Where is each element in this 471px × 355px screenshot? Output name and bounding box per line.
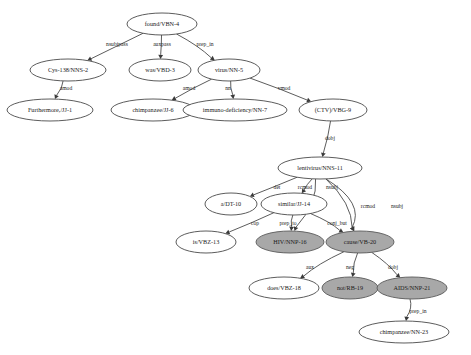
graph-edge-vmod: vmod [250,78,311,102]
graph-edge-cop: cop [225,213,273,234]
graph-canvas: nsubjpassauxpassprep_inamodamodnnvmoddob… [0,0,471,355]
edge-label: neg [346,264,354,270]
graph-node-n21[interactable]: AIDS/NNP-21 [377,277,447,299]
graph-node-n16[interactable]: HIV/NNP-16 [256,231,324,253]
edge-label: dobj [325,135,335,141]
edge-label: prep_to [279,220,296,226]
node-label: was/VBD-3 [145,66,175,73]
node-label: Furthermore,/JJ-1 [28,106,72,113]
arrowhead-icon [210,56,215,60]
graph-edge-dobj: dobj [372,252,401,277]
graph-node-n23[interactable]: chimpanzee/NN-23 [359,321,449,343]
edge-label: rcmod [298,184,312,190]
edge-label: det [274,184,281,190]
graph-node-n10[interactable]: a/DT-10 [205,193,257,215]
graph-edge-amod: amod [54,81,72,99]
edge-label: vmod [278,85,291,91]
edge-label: aux [306,264,314,270]
arrowhead-icon [158,55,163,59]
graph-node-n6[interactable]: chimpanzee/JJ-6 [111,99,195,121]
node-label: not/RB-19 [337,284,363,291]
graph-edge-aux: aux [300,252,344,279]
edge-label: prep_in [196,41,213,47]
edge-label: prep_in [409,308,426,314]
graph-node-n4[interactable]: found/VBN-4 [127,13,197,35]
arrowhead-icon [289,227,294,231]
graph-edge-nn: nn [225,81,235,99]
graph-node-n1[interactable]: Furthermore,/JJ-1 [7,99,93,121]
node-label: immuno-deficiency/NN-7 [203,106,267,113]
node-label: a/DT-10 [221,200,241,207]
graph-edge-prep_in: prep_in [404,299,426,321]
edge-label: amod [60,85,73,91]
node-label: HIV/NNP-16 [273,238,306,245]
edge-label: nsubjpass [106,41,128,47]
arrowhead-icon [230,95,235,100]
edge-label: cop [251,220,259,226]
arrowhead-icon [404,316,409,321]
graph-node-n2[interactable]: Cys-138/NNS-2 [30,59,106,81]
graph-node-n13[interactable]: is/VBZ-13 [176,231,236,253]
node-label: AIDS/NNP-21 [394,284,431,291]
graph-edge-dobj: dobj [321,121,335,157]
edge-label: conj_but [327,220,347,226]
edge-label: auxpass [153,41,171,47]
graph-node-n14[interactable]: similar/JJ-14 [261,193,327,215]
graph-node-n9[interactable]: (CTV)/VBG-9 [299,99,367,121]
edge-label: amod [183,85,196,91]
node-label: cause/VB-20 [344,238,376,245]
edge-label: nn [225,85,231,91]
graph-edge-amod: amod [172,79,212,100]
graph-edge-neg: neg [346,253,358,277]
node-label: similar/JJ-14 [278,200,310,207]
node-label: found/VBN-4 [145,20,179,27]
graph-node-n5[interactable]: virus/NN-5 [198,59,260,81]
graph-edge-prep_in: prep_in [177,34,215,60]
node-layer: found/VBN-4Cys-138/NNS-2was/VBD-3virus/N… [7,13,449,343]
node-label: lentivirus/NNS-11 [297,164,343,171]
node-label: (CTV)/VBG-9 [315,106,351,114]
graph-node-n18[interactable]: does/VBZ-18 [249,277,319,299]
graph-edge-nsubjpass: nsubjpass [87,33,143,61]
graph-node-n7[interactable]: immuno-deficiency/NN-7 [183,99,287,121]
graph-node-n11[interactable]: lentivirus/NNS-11 [278,157,362,179]
node-label: Cys-138/NNS-2 [48,66,88,73]
node-label: does/VBZ-18 [267,284,301,291]
edge-label: dobj [388,264,398,270]
graph-edge-rcmod: rcmod [298,179,312,194]
graph-edge-conj_but: conj_but [311,214,348,233]
node-label: virus/NN-5 [215,66,243,73]
dependency-graph-figure: nsubjpassauxpassprep_inamodamodnnvmoddob… [0,0,471,355]
graph-node-n19[interactable]: not/RB-19 [322,277,378,299]
edge-label: rcmod [361,203,375,209]
node-label: is/VBZ-13 [193,238,219,245]
edge-line [231,81,233,95]
node-label: chimpanzee/JJ-6 [132,106,173,113]
graph-node-n20[interactable]: cause/VB-20 [326,231,394,253]
edge-label: nsubj [391,203,404,209]
arrowhead-icon [321,152,326,157]
arrowhead-icon [351,272,356,277]
graph-node-n3[interactable]: was/VBD-3 [129,59,191,81]
node-label: chimpanzee/NN-23 [380,328,428,335]
graph-edge-auxpass: auxpass [153,35,171,59]
